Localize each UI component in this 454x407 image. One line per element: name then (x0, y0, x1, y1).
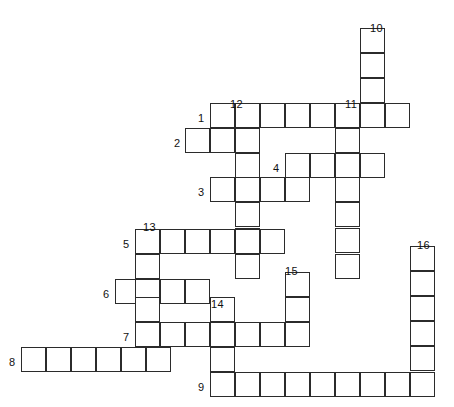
crossword-cell[interactable] (210, 372, 235, 397)
crossword-cell[interactable] (160, 322, 185, 347)
clue-number-8-across: 8 (9, 357, 16, 368)
crossword-cell[interactable] (185, 279, 210, 304)
crossword-cell[interactable] (335, 128, 360, 153)
crossword-cell[interactable] (310, 153, 335, 178)
crossword-cell[interactable] (285, 297, 310, 322)
crossword-cell[interactable] (135, 254, 160, 279)
crossword-cell[interactable] (160, 229, 185, 254)
clue-number-3-across: 3 (198, 187, 205, 198)
crossword-cell[interactable] (260, 177, 285, 202)
crossword-cell[interactable] (310, 372, 335, 397)
clue-number-7-across: 7 (123, 332, 130, 343)
crossword-cell[interactable] (146, 347, 171, 372)
crossword-cell[interactable] (360, 78, 385, 103)
crossword-cell[interactable] (335, 228, 360, 253)
clue-number-15-down: 15 (285, 266, 298, 277)
crossword-cell[interactable] (71, 347, 96, 372)
crossword-cell[interactable] (285, 322, 310, 347)
clue-number-16-down: 16 (417, 240, 430, 251)
crossword-cell[interactable] (385, 103, 410, 128)
crossword-cell[interactable] (335, 372, 360, 397)
crossword-cell[interactable] (310, 103, 335, 128)
crossword-cell[interactable] (135, 297, 160, 322)
crossword-cell[interactable] (235, 254, 260, 279)
crossword-cell[interactable] (410, 271, 435, 296)
crossword-cell[interactable] (360, 103, 385, 128)
crossword-cell[interactable] (410, 321, 435, 346)
crossword-cell[interactable] (285, 177, 310, 202)
clue-number-1-across: 1 (198, 113, 205, 124)
crossword-cell[interactable] (210, 128, 235, 153)
crossword-cell[interactable] (235, 128, 260, 153)
crossword-cell[interactable] (121, 347, 146, 372)
crossword-cell[interactable] (260, 322, 285, 347)
crossword-cell[interactable] (235, 372, 260, 397)
crossword-cell[interactable] (235, 322, 260, 347)
crossword-cell[interactable] (260, 372, 285, 397)
crossword-cell[interactable] (160, 279, 185, 304)
crossword-cell[interactable] (210, 177, 235, 202)
crossword-cell[interactable] (285, 372, 310, 397)
crossword-cell[interactable] (210, 229, 235, 254)
clue-number-13-down: 13 (143, 222, 156, 233)
crossword-cell[interactable] (335, 177, 360, 202)
crossword-cell[interactable] (210, 347, 235, 372)
clue-number-6-across: 6 (103, 289, 110, 300)
crossword-cell[interactable] (235, 202, 260, 227)
clue-number-12-down: 12 (230, 99, 243, 110)
clue-number-4-across: 4 (273, 163, 280, 174)
crossword-cell[interactable] (210, 322, 235, 347)
crossword-cell[interactable] (360, 53, 385, 78)
crossword-puzzle-grid[interactable]: 12345678910111213141516 (0, 0, 454, 407)
clue-number-2-across: 2 (174, 138, 181, 149)
clue-number-14-down: 14 (211, 299, 224, 310)
crossword-cell[interactable] (185, 229, 210, 254)
crossword-cell[interactable] (410, 346, 435, 371)
crossword-cell[interactable] (185, 128, 210, 153)
crossword-cell[interactable] (21, 347, 46, 372)
crossword-cell[interactable] (285, 103, 310, 128)
crossword-cell[interactable] (385, 372, 410, 397)
crossword-cell[interactable] (335, 254, 360, 279)
crossword-cell[interactable] (410, 372, 435, 397)
crossword-cell[interactable] (185, 322, 210, 347)
crossword-cell[interactable] (260, 229, 285, 254)
clue-number-5-across: 5 (123, 239, 130, 250)
crossword-cell[interactable] (360, 153, 385, 178)
crossword-cell[interactable] (335, 202, 360, 227)
clue-number-11-down: 11 (345, 99, 357, 110)
crossword-cell[interactable] (235, 229, 260, 254)
crossword-cell[interactable] (335, 153, 360, 178)
crossword-cell[interactable] (235, 153, 260, 178)
crossword-cell[interactable] (410, 296, 435, 321)
crossword-cell[interactable] (235, 177, 260, 202)
crossword-cell[interactable] (285, 153, 310, 178)
crossword-cell[interactable] (260, 103, 285, 128)
clue-number-10-down: 10 (370, 23, 383, 34)
crossword-cell[interactable] (46, 347, 71, 372)
crossword-cell[interactable] (360, 372, 385, 397)
crossword-cell[interactable] (135, 322, 160, 347)
clue-number-9-across: 9 (198, 382, 205, 393)
crossword-cell[interactable] (96, 347, 121, 372)
